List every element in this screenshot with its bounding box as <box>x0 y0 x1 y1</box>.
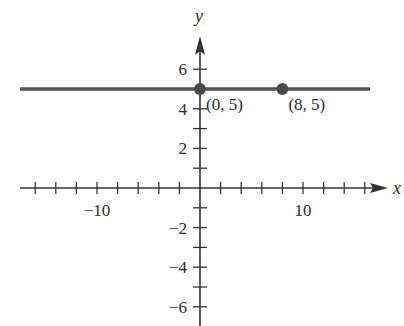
x-tick-label: 10 <box>295 201 312 220</box>
y-tick-label: 4 <box>179 100 188 119</box>
data-point <box>276 83 288 95</box>
y-tick-label: −6 <box>169 298 187 317</box>
coordinate-plane-chart: xy−1010642−2−4−6(0, 5)(8, 5) <box>0 0 404 326</box>
y-tick-label: −2 <box>169 219 187 238</box>
y-tick-label: 2 <box>179 139 188 158</box>
x-tick-label: −10 <box>84 201 111 220</box>
y-axis-label: y <box>193 6 203 26</box>
data-point-label: (0, 5) <box>206 95 243 114</box>
data-point <box>194 83 206 95</box>
x-axis-label: x <box>392 178 401 198</box>
data-point-label: (8, 5) <box>288 95 325 114</box>
y-tick-label: −4 <box>169 258 188 277</box>
y-tick-label: 6 <box>179 60 188 79</box>
